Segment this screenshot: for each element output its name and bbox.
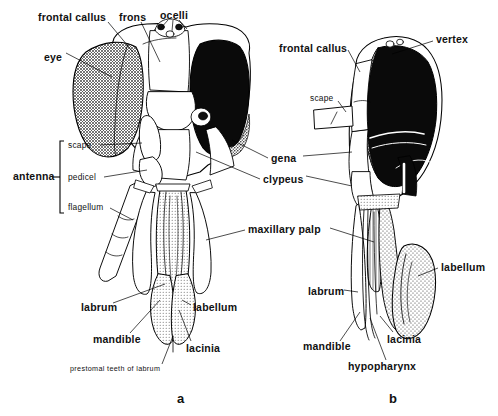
label-prestomal-teeth-of-labrum: prestomal teeth of labrum <box>70 365 160 372</box>
label-lacinia-a: lacinia <box>186 343 220 354</box>
label-frontal-callus-a: frontal callus <box>38 12 106 23</box>
label-antenna-a: antenna <box>13 171 55 182</box>
rostrum-lateral <box>358 194 400 210</box>
ocellus-right <box>176 24 183 30</box>
leader-hypopharynx-b <box>370 318 386 360</box>
label-hypopharynx-b: hypopharynx <box>348 361 416 372</box>
label-mandible-a: mandible <box>93 334 141 345</box>
label-scape-b: scape <box>310 94 333 102</box>
label-labellum-a: labellum <box>193 302 237 313</box>
label-scape-a: scape <box>68 141 91 149</box>
leader-clypeus-to-b <box>306 176 352 186</box>
label-maxillary-palp: maxillary palp <box>248 224 321 235</box>
label-frons-a: frons <box>119 12 146 23</box>
ocellus-median <box>166 31 174 37</box>
antenna-bracket <box>60 141 64 213</box>
maxillary-palp-right <box>190 193 211 294</box>
label-labellum-b: labellum <box>441 262 485 273</box>
label-ocelli-a: ocelli <box>160 10 188 21</box>
label-flagellum-a: flagellum <box>68 203 103 211</box>
scape-lateral <box>314 106 353 129</box>
labellum-lobe-right <box>171 274 195 344</box>
label-pedicel-a: pedicel <box>68 173 96 181</box>
leader-gena-to-b <box>303 152 352 156</box>
labellum-lateral <box>392 244 435 339</box>
label-vertex-b: vertex <box>436 34 468 45</box>
leader-maxillary-palp-to-a <box>206 230 245 240</box>
panel-letter-a: a <box>177 392 184 405</box>
figure-container: frontal callus frons ocelli eye scape an… <box>0 0 498 416</box>
label-lacinia-b: lacinia <box>387 334 421 345</box>
right-basal-plate <box>192 180 212 193</box>
label-labrum-a: labrum <box>81 302 117 313</box>
proboscis-base-theca <box>156 184 190 191</box>
label-labrum-b: labrum <box>308 286 344 297</box>
label-frontal-callus-b: frontal callus <box>279 43 347 54</box>
label-gena: gena <box>271 153 296 164</box>
lateral-ocellus-2 <box>397 39 404 45</box>
panel-letter-b: b <box>389 392 397 405</box>
lateral-ocellus-1 <box>386 41 394 47</box>
label-eye-a: eye <box>44 52 62 63</box>
right-antennal-socket <box>198 112 207 120</box>
label-mandible-b: mandible <box>303 341 351 352</box>
label-clypeus: clypeus <box>263 174 304 185</box>
leader-mandible-b <box>340 312 360 341</box>
